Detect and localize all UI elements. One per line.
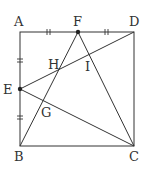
label-c: C: [129, 149, 139, 164]
label-i: I: [85, 59, 90, 74]
segment-ed: [20, 32, 134, 89]
label-d: D: [129, 14, 139, 29]
geometry-diagram: A F D H I E G B C: [0, 0, 149, 169]
square-abcd: [20, 32, 134, 146]
point-f-dot: [76, 30, 80, 34]
segment-ec: [20, 89, 134, 146]
point-e-dot: [18, 87, 22, 91]
segment-fb: [20, 32, 78, 146]
label-b: B: [14, 149, 24, 164]
segment-fc: [78, 32, 134, 146]
label-f: F: [73, 14, 82, 29]
label-h: H: [48, 57, 59, 72]
label-g: G: [41, 105, 51, 120]
label-e: E: [3, 82, 13, 97]
label-a: A: [13, 14, 24, 29]
